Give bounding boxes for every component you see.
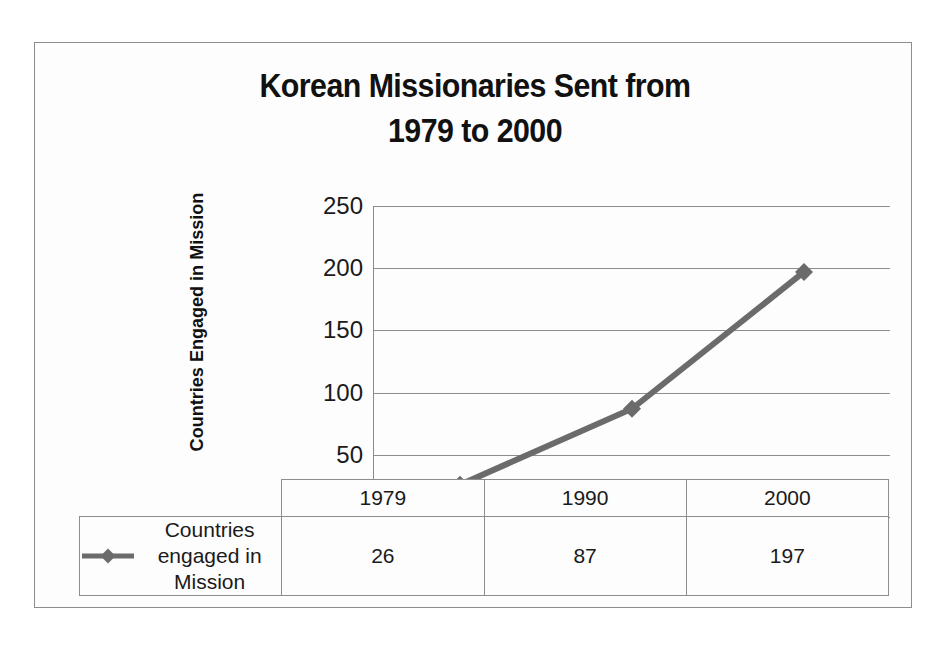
series-polyline bbox=[460, 272, 804, 485]
legend-label: Countries engaged in Mission bbox=[138, 517, 281, 595]
chart-title-line-1: Korean Missionaries Sent from bbox=[125, 63, 824, 108]
table-row-categories: 1979 1990 2000 bbox=[80, 480, 889, 517]
y-tick-label-150: 150 bbox=[293, 318, 363, 342]
series-line-chart bbox=[374, 206, 890, 517]
y-tick-label-100: 100 bbox=[293, 381, 363, 405]
series-markers bbox=[451, 263, 813, 494]
legend-entry: Countries engaged in Mission bbox=[80, 517, 282, 596]
legend-line-diamond-icon bbox=[80, 545, 136, 567]
chart-title: Korean Missionaries Sent from 1979 to 20… bbox=[125, 63, 824, 153]
table-row-values: Countries engaged in Mission 26 87 197 bbox=[80, 517, 889, 596]
table-corner-blank bbox=[80, 480, 282, 517]
chart-title-line-2: 1979 to 2000 bbox=[125, 108, 824, 153]
chart-frame: Korean Missionaries Sent from 1979 to 20… bbox=[34, 42, 912, 608]
table-value-cell-1990: 87 bbox=[484, 517, 686, 596]
y-tick-label-200: 200 bbox=[293, 256, 363, 280]
table-header-cell-1979: 1979 bbox=[282, 480, 484, 517]
table-header-cell-1990: 1990 bbox=[484, 480, 686, 517]
table-value-cell-1979: 26 bbox=[282, 517, 484, 596]
y-axis-title: Countries Engaged in Mission bbox=[186, 165, 208, 479]
data-table: 1979 1990 2000 Countries engaged in Miss… bbox=[79, 479, 889, 596]
y-tick-label-50: 50 bbox=[293, 443, 363, 467]
table-header-cell-2000: 2000 bbox=[686, 480, 888, 517]
legend-label-line-1: Countries engaged in bbox=[158, 518, 262, 567]
plot-area: 250 200 150 100 50 0 bbox=[373, 206, 889, 517]
y-tick-label-250: 250 bbox=[293, 194, 363, 218]
table-value-cell-2000: 197 bbox=[686, 517, 888, 596]
legend-label-line-2: Mission bbox=[174, 570, 245, 593]
